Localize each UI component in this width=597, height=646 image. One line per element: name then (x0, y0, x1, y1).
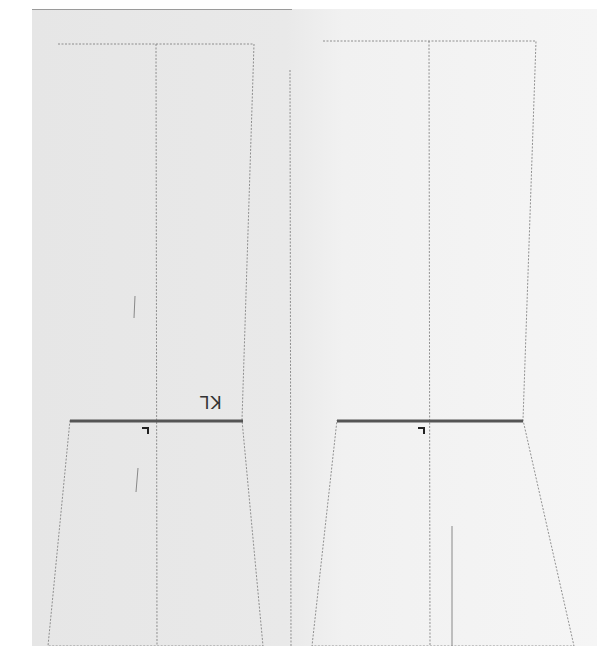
piece-outline (48, 44, 263, 646)
knee-corner-mark (142, 428, 148, 434)
grain-stroke (136, 468, 138, 492)
grain-center-line (429, 41, 430, 646)
knee-corner-mark (418, 428, 424, 434)
knee-line-label: KL (199, 393, 222, 410)
piece-outline (312, 41, 574, 646)
separator-line (290, 70, 291, 646)
back-leg-piece (312, 41, 574, 646)
grain-stroke (134, 296, 135, 318)
pattern-drawing (0, 0, 597, 646)
grain-center-line (156, 44, 157, 646)
front-leg-piece (48, 44, 263, 646)
